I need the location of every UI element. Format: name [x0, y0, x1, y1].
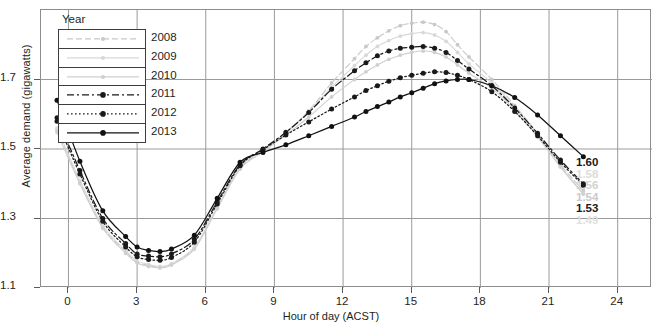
legend-label: 2013 — [151, 125, 177, 137]
x-tick-label: 12 — [322, 295, 362, 307]
x-tick-mark — [411, 287, 412, 293]
value-annotations: 1.601.581.561.541.531.49 — [576, 157, 636, 227]
x-tick-mark — [273, 287, 274, 293]
legend-item-2013[interactable]: 2013 — [59, 124, 145, 142]
y-tick-mark — [34, 218, 40, 219]
y-tick-mark — [34, 79, 40, 80]
x-tick-label: 0 — [47, 295, 87, 307]
y-tick-label: 1.3 — [0, 210, 16, 222]
y-axis-title: Average demand (gigawatts) — [20, 16, 32, 216]
legend-item-2009[interactable]: 2009 — [59, 49, 145, 68]
x-tick-mark — [67, 287, 68, 293]
legend-key-2009 — [59, 49, 147, 67]
legend-label: 2012 — [151, 106, 177, 118]
annotation-value: 1.49 — [576, 215, 636, 227]
y-tick-label: 1.5 — [0, 140, 16, 152]
legend-item-2011[interactable]: 2011 — [59, 86, 145, 105]
y-tick-mark — [34, 148, 40, 149]
x-tick-label: 24 — [597, 295, 637, 307]
x-tick-label: 18 — [459, 295, 499, 307]
chart-container: Average demand (gigawatts) Hour of day (… — [0, 0, 662, 329]
legend-item-2008[interactable]: 2008 — [59, 30, 145, 49]
y-tick-label: 1.7 — [0, 71, 16, 83]
x-tick-label: 9 — [253, 295, 293, 307]
x-tick-mark — [617, 287, 618, 293]
legend-label: 2011 — [151, 87, 176, 99]
legend-item-2012[interactable]: 2012 — [59, 105, 145, 124]
x-tick-label: 6 — [185, 295, 225, 307]
chart-legend: 200820092010201120122013 — [58, 29, 146, 143]
legend-key-2012 — [59, 105, 147, 123]
x-tick-mark — [342, 287, 343, 293]
legend-label: 2009 — [151, 50, 177, 62]
x-tick-mark — [205, 287, 206, 293]
legend-key-2011 — [59, 86, 147, 104]
x-axis-title: Hour of day (ACST) — [0, 310, 662, 322]
legend-key-2008 — [59, 30, 147, 48]
x-tick-mark — [136, 287, 137, 293]
legend-item-2010[interactable]: 2010 — [59, 68, 145, 87]
x-tick-mark — [479, 287, 480, 293]
y-tick-label: 1.1 — [0, 279, 16, 291]
legend-key-2013 — [59, 124, 147, 142]
legend-label: 2010 — [151, 69, 177, 81]
y-tick-mark — [34, 287, 40, 288]
x-tick-label: 3 — [116, 295, 156, 307]
legend-key-2010 — [59, 68, 147, 86]
legend-label: 2008 — [151, 31, 177, 43]
annotation-value: 1.60 — [576, 157, 636, 169]
x-tick-label: 15 — [391, 295, 431, 307]
x-tick-label: 21 — [528, 295, 568, 307]
x-tick-mark — [548, 287, 549, 293]
legend-title: Year — [62, 13, 85, 25]
